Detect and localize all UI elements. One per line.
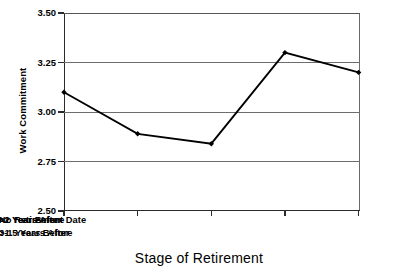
- x-axis-title: Stage of Retirement: [0, 250, 398, 266]
- series-polyline: [64, 53, 359, 144]
- y-tick-label: 2.75: [22, 157, 56, 167]
- x-tick-label: >1.5 Years After: [0, 229, 69, 238]
- data-point-marker: [356, 70, 361, 75]
- y-tick-label: 3.50: [22, 8, 56, 18]
- plot-area: [64, 13, 360, 211]
- chart-figure: Work Commitment 2.50 2.75 3.00 3.25 3.50…: [0, 0, 398, 276]
- y-tick-label: 3.00: [22, 107, 56, 117]
- y-tick-label: 3.25: [22, 58, 56, 68]
- x-tick-label: >2 Years After: [0, 216, 61, 225]
- data-series-line: [64, 13, 360, 211]
